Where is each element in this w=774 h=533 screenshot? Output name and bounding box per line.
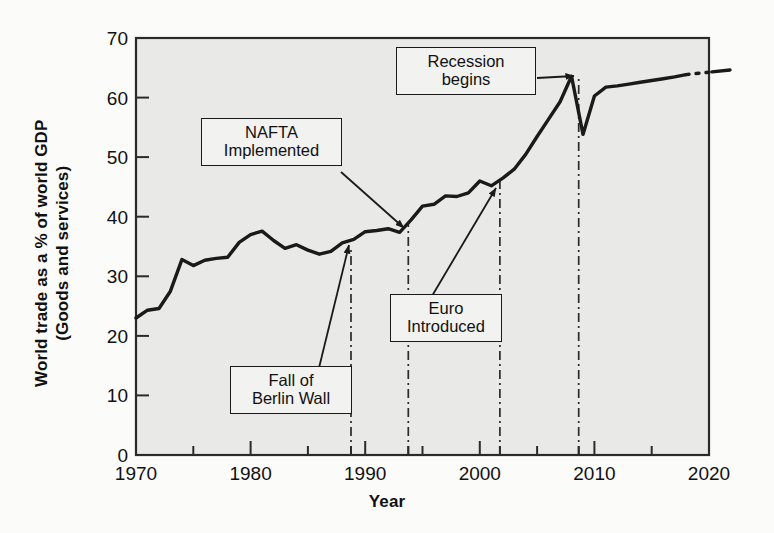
- x-tick-2020: 2020: [688, 463, 730, 484]
- y-axis-title-line1: World trade as a % of world GDP: [32, 120, 51, 387]
- annotation-nafta-line1: NAFTA: [209, 123, 334, 141]
- y-axis-title-line2: (Goods and services): [53, 166, 72, 341]
- x-tick-2000: 2000: [459, 463, 501, 484]
- x-tick-1970: 1970: [115, 463, 157, 484]
- annotation-nafta-line2: Implemented: [209, 141, 334, 159]
- x-axis-tick-labels: 1970 1980 1990 2000 2010 2020: [115, 463, 730, 484]
- y-axis-tick-labels: 0 10 20 30 40 50 60 70: [107, 28, 128, 466]
- y-tick-60: 60: [107, 88, 128, 109]
- chart-figure: 0 10 20 30 40 50 60 70: [0, 0, 774, 533]
- annotation-euro-introduced[interactable]: Euro Introduced: [390, 294, 502, 342]
- y-axis-title: World trade as a % of world GDP (Goods a…: [31, 83, 74, 423]
- annotation-berlin-line1: Fall of: [238, 371, 344, 389]
- annotation-berlin-line2: Berlin Wall: [238, 389, 344, 407]
- x-axis-title: Year: [0, 492, 774, 512]
- y-tick-20: 20: [107, 326, 128, 347]
- x-tick-1990: 1990: [344, 463, 386, 484]
- annotation-recession-begins[interactable]: Recession begins: [396, 47, 536, 95]
- annotation-nafta-implemented[interactable]: NAFTA Implemented: [201, 118, 342, 166]
- chart-canvas: 0 10 20 30 40 50 60 70: [0, 0, 774, 533]
- annotation-recession-line2: begins: [404, 70, 528, 88]
- plot-area-background: [136, 38, 709, 455]
- annotation-euro-line1: Euro: [398, 299, 494, 317]
- y-tick-50: 50: [107, 147, 128, 168]
- y-tick-10: 10: [107, 385, 128, 406]
- x-tick-2010: 2010: [573, 463, 615, 484]
- y-tick-40: 40: [107, 207, 128, 228]
- x-tick-1980: 1980: [229, 463, 271, 484]
- annotation-recession-line1: Recession: [404, 52, 528, 70]
- annotation-euro-line2: Introduced: [398, 317, 494, 335]
- y-tick-30: 30: [107, 266, 128, 287]
- world-trade-data-line-tail-outside: [712, 70, 730, 72]
- annotation-fall-of-berlin-wall[interactable]: Fall of Berlin Wall: [230, 366, 352, 414]
- y-tick-70: 70: [107, 28, 128, 49]
